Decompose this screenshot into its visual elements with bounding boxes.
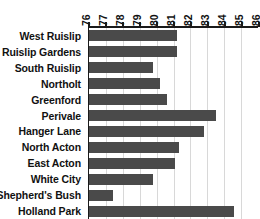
bar[interactable] — [89, 174, 153, 185]
category-label: Holland Park — [0, 203, 85, 219]
bar-slot — [89, 28, 258, 44]
category-label: East Acton — [0, 155, 85, 171]
x-axis-tick-label: 78 — [114, 14, 126, 26]
x-axis-tick — [156, 22, 158, 27]
category-label: Ruislip Gardens — [0, 44, 85, 60]
x-axis-tick — [105, 22, 107, 27]
x-axis-tick — [224, 22, 226, 27]
category-label: White City — [0, 171, 85, 187]
bar-slot — [89, 203, 258, 219]
bar[interactable] — [89, 78, 160, 89]
x-axis-tick — [258, 22, 260, 27]
bar-slot — [89, 155, 258, 171]
bar-slot — [89, 92, 258, 108]
category-label: Greenford — [0, 92, 85, 108]
x-axis-tick-label: 82 — [182, 14, 194, 26]
category-label: Hanger Lane — [0, 124, 85, 140]
x-axis-tick-label: 76 — [80, 14, 92, 26]
bar[interactable] — [89, 30, 177, 41]
bar-series — [89, 28, 258, 219]
bar-slot — [89, 124, 258, 140]
x-axis-tick-label: 85 — [233, 14, 245, 26]
bar[interactable] — [89, 62, 153, 73]
x-axis-tick-label: 80 — [148, 14, 160, 26]
bar[interactable] — [89, 142, 179, 153]
x-axis-tick-label: 79 — [131, 14, 143, 26]
bar[interactable] — [89, 126, 204, 137]
bar-slot — [89, 60, 258, 76]
bar[interactable] — [89, 110, 216, 121]
bar[interactable] — [89, 158, 175, 169]
category-axis-labels: West RuislipRuislip GardensSouth Ruislip… — [0, 28, 85, 219]
plot-area — [88, 28, 258, 219]
x-axis-tick-label: 83 — [199, 14, 211, 26]
category-label: North Acton — [0, 139, 85, 155]
bar[interactable] — [89, 190, 113, 201]
category-label: Shepherd's Bush — [0, 187, 85, 203]
bar-slot — [89, 171, 258, 187]
bar-slot — [89, 44, 258, 60]
category-label: South Ruislip — [0, 60, 85, 76]
bar-slot — [89, 76, 258, 92]
x-axis-tick — [207, 22, 209, 27]
x-axis-tick — [122, 22, 124, 27]
x-axis-tick — [190, 22, 192, 27]
x-axis-tick — [88, 22, 90, 27]
bar-chart: 7677787980818283848586 West RuislipRuisl… — [0, 0, 260, 219]
x-axis-tick-label: 77 — [97, 14, 109, 26]
x-axis-tick — [139, 22, 141, 27]
bar[interactable] — [89, 206, 234, 217]
x-axis-tick — [173, 22, 175, 27]
x-axis-tick — [241, 22, 243, 27]
bar[interactable] — [89, 46, 177, 57]
bar-slot — [89, 187, 258, 203]
bar-slot — [89, 139, 258, 155]
bar[interactable] — [89, 94, 167, 105]
x-axis-tick-label: 84 — [216, 14, 228, 26]
x-axis-tick-label: 81 — [165, 14, 177, 26]
category-label: Perivale — [0, 108, 85, 124]
category-label: West Ruislip — [0, 28, 85, 44]
category-label: Northolt — [0, 76, 85, 92]
bar-slot — [89, 108, 258, 124]
